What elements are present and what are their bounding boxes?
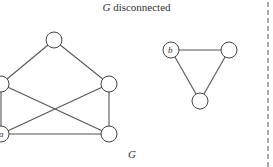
edge-b-tribottom (171, 50, 200, 101)
node-b-label: b (168, 45, 173, 55)
node-top (46, 32, 62, 48)
edge-triright-tribottom (200, 50, 229, 101)
graph-diagram: a b (0, 0, 273, 167)
node-right-mid (101, 76, 117, 92)
pentagon-component-nodes: a (0, 32, 117, 142)
pentagon-component-edges (1, 40, 109, 134)
edge-top-rightmid (54, 40, 109, 84)
triangle-component-nodes: b (163, 42, 237, 109)
edge-top-leftmid (1, 40, 54, 84)
node-tri-right (221, 42, 237, 58)
node-tri-bottom (192, 93, 208, 109)
graph-label: G (128, 148, 136, 160)
node-bottom-right (101, 126, 117, 142)
node-a-label: a (0, 129, 4, 139)
